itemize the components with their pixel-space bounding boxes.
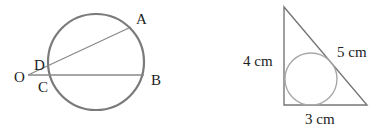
label-O: O xyxy=(14,69,25,85)
label-side-4cm: 4 cm xyxy=(243,53,273,69)
label-side-3cm: 3 cm xyxy=(305,111,335,127)
label-A: A xyxy=(136,11,147,27)
label-B: B xyxy=(151,72,161,88)
label-side-5cm: 5 cm xyxy=(337,44,367,60)
label-D: D xyxy=(34,57,45,73)
triangle-figure: 4 cm 5 cm 3 cm xyxy=(243,7,367,127)
diagram-canvas: A B D O C 4 cm 5 cm 3 cm xyxy=(0,0,383,127)
main-circle xyxy=(48,14,144,110)
inscribed-circle xyxy=(285,53,337,105)
label-C: C xyxy=(38,79,48,95)
secant-figure: A B D O C xyxy=(14,11,161,110)
